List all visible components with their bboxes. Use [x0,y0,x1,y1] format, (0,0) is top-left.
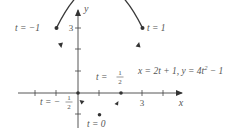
direction-arrow-icon [136,42,142,48]
parametric-plot: 3 x 3 y t = −1 t = 1 t = 0 t = 1 2 t = −… [0,0,252,137]
x-tick-label-3: 3 [140,98,145,108]
svg-text:1: 1 [118,69,122,77]
point-t-neg1 [55,26,59,30]
equation-label: x = 2t + 1, y = 4t2 − 1 [137,64,223,76]
point-t-zero [98,113,102,117]
y-axis-label: y [83,3,89,14]
label-t-neg1: t = −1 [15,23,40,33]
y-axis: 3 y [69,3,89,128]
point-t-neg-half [76,91,80,95]
label-t-zero: t = 0 [87,119,106,129]
direction-arrow-icon [115,101,119,106]
svg-text:t = −: t = − [40,97,60,107]
svg-text:t =: t = [96,72,107,82]
svg-text:2: 2 [67,103,71,111]
label-t-pos1: t = 1 [147,23,166,33]
direction-arrow-icon [58,43,64,49]
direction-arrow-icon [80,100,85,105]
point-t-pos1 [141,26,145,30]
svg-text:x = 2t + 1, y = 4t2 − 1: x = 2t + 1, y = 4t2 − 1 [137,64,223,76]
label-t-neg-half: t = − 1 2 [40,94,73,111]
svg-text:2: 2 [118,78,122,86]
x-axis-label: x [178,97,184,108]
point-t-half [119,91,123,95]
label-t-half: t = 1 2 [96,69,124,86]
y-tick-label-3: 3 [69,23,74,33]
svg-text:1: 1 [67,94,71,102]
